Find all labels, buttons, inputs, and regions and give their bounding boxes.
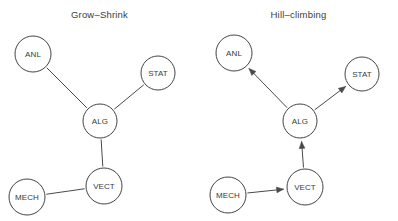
graph-edge-alg-anl <box>249 68 287 107</box>
graph-node-vect[interactable]: VECT <box>287 169 323 205</box>
graph-node-anl[interactable]: ANL <box>15 36 51 72</box>
two-panel-graph-figure: Grow–Shrink ANLSTATALGVECTMECH Hill–clim… <box>0 0 398 221</box>
node-label-stat: STAT <box>352 70 372 79</box>
graph-edge-mech-vect <box>46 189 84 194</box>
node-layer: ANLSTATALGVECTMECH <box>210 35 379 213</box>
node-label-mech: MECH <box>216 191 240 200</box>
node-label-mech: MECH <box>15 193 39 202</box>
graph-grow-shrink: ANLSTATALGVECTMECH <box>0 0 199 221</box>
panel-hill-climbing: Hill–climbing ANLSTATALGVECTMECH <box>199 0 398 221</box>
graph-node-mech[interactable]: MECH <box>210 177 246 213</box>
arrowhead-icon <box>299 141 305 148</box>
panel-grow-shrink: Grow–Shrink ANLSTATALGVECTMECH <box>0 0 199 221</box>
graph-node-stat[interactable]: STAT <box>141 56 175 90</box>
graph-node-alg[interactable]: ALG <box>283 104 317 138</box>
graph-node-mech[interactable]: MECH <box>9 179 45 215</box>
graph-node-anl[interactable]: ANL <box>216 35 252 71</box>
node-label-vect: VECT <box>93 182 115 191</box>
node-label-alg: ALG <box>292 117 308 126</box>
node-layer: ANLSTATALGVECTMECH <box>9 36 175 215</box>
node-label-anl: ANL <box>25 50 41 59</box>
node-label-anl: ANL <box>226 49 242 58</box>
node-label-stat: STAT <box>148 69 168 78</box>
arrowhead-icon <box>338 86 345 93</box>
graph-edge-stat-alg <box>114 85 143 109</box>
graph-node-alg[interactable]: ALG <box>83 104 117 138</box>
graph-node-stat[interactable]: STAT <box>345 57 379 91</box>
graph-node-vect[interactable]: VECT <box>86 168 122 204</box>
node-label-vect: VECT <box>294 183 316 192</box>
node-label-alg: ALG <box>92 117 108 126</box>
arrowhead-icon <box>276 187 283 193</box>
graph-edge-anl-alg <box>47 68 87 108</box>
graph-edge-alg-vect <box>101 139 103 166</box>
graph-hill-climbing: ANLSTATALGVECTMECH <box>199 0 398 221</box>
